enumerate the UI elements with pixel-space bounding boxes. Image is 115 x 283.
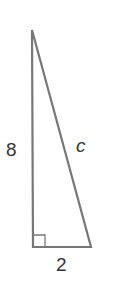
right-angle-marker bbox=[33, 235, 45, 247]
horizontal-leg-label: 2 bbox=[56, 255, 67, 274]
hypotenuse-label: c bbox=[76, 136, 86, 155]
right-triangle-diagram bbox=[0, 0, 115, 283]
vertical-leg-label: 8 bbox=[6, 140, 17, 159]
